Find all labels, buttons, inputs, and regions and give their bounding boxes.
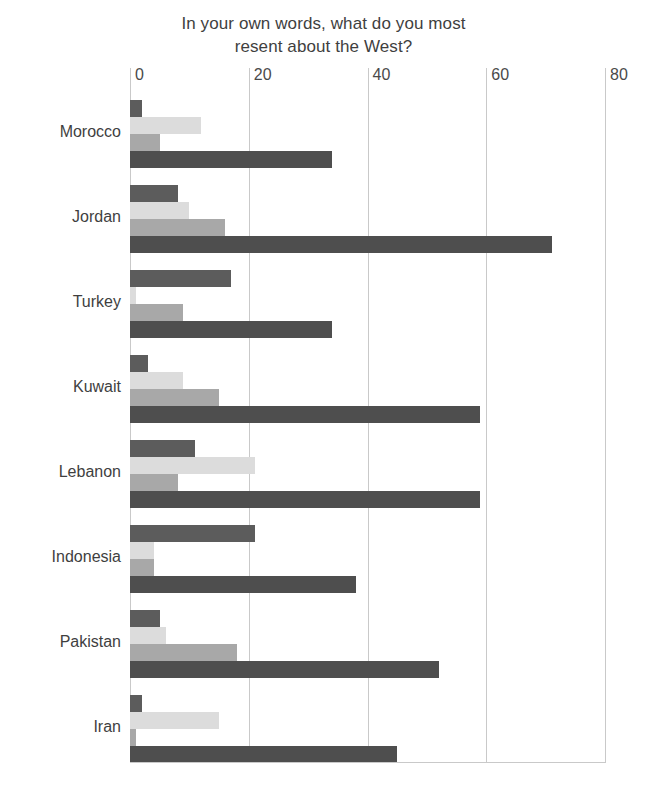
bar — [130, 287, 136, 304]
bar-group: Morocco — [130, 100, 605, 168]
bar-group: Lebanon — [130, 440, 605, 508]
bar-group: Pakistan — [130, 610, 605, 678]
category-label-jordan: Jordan — [72, 208, 121, 226]
bar — [130, 100, 142, 117]
bar — [130, 474, 178, 491]
chart-title-line-1: In your own words, what do you most — [0, 12, 647, 35]
bar — [130, 729, 136, 746]
bar — [130, 610, 160, 627]
bar — [130, 236, 552, 253]
bar — [130, 491, 480, 508]
x-tick-label-60: 60 — [486, 66, 509, 84]
category-label-iran: Iran — [93, 718, 121, 736]
x-tick-label-0: 0 — [130, 66, 144, 84]
bar-group: Jordan — [130, 185, 605, 253]
bar — [130, 134, 160, 151]
bar — [130, 219, 225, 236]
bar — [130, 406, 480, 423]
bar — [130, 202, 189, 219]
category-label-kuwait: Kuwait — [73, 378, 121, 396]
x-tick-label-40: 40 — [368, 66, 391, 84]
bar — [130, 661, 439, 678]
bar — [130, 525, 255, 542]
bar-group: Kuwait — [130, 355, 605, 423]
bar — [130, 151, 332, 168]
chart-title: In your own words, what do you most rese… — [0, 12, 647, 58]
bar-group: Turkey — [130, 270, 605, 338]
bar-group: Indonesia — [130, 525, 605, 593]
bar — [130, 559, 154, 576]
bar — [130, 576, 356, 593]
bar-group: Iran — [130, 695, 605, 763]
bar — [130, 117, 201, 134]
category-label-turkey: Turkey — [73, 293, 121, 311]
bar — [130, 389, 219, 406]
category-label-morocco: Morocco — [60, 123, 121, 141]
category-label-lebanon: Lebanon — [59, 463, 121, 481]
bar — [130, 270, 231, 287]
bar — [130, 644, 237, 661]
x-tick-label-80: 80 — [605, 66, 628, 84]
bar — [130, 695, 142, 712]
bar — [130, 440, 195, 457]
bar — [130, 457, 255, 474]
bar — [130, 712, 219, 729]
bar — [130, 372, 183, 389]
bar — [130, 321, 332, 338]
bar — [130, 542, 154, 559]
plot-area: 020406080MoroccoJordanTurkeyKuwaitLebano… — [130, 94, 605, 762]
bar — [130, 746, 397, 763]
chart-root: In your own words, what do you most rese… — [0, 0, 647, 806]
bar — [130, 304, 183, 321]
category-label-pakistan: Pakistan — [60, 633, 121, 651]
category-label-indonesia: Indonesia — [52, 548, 121, 566]
x-axis-baseline — [130, 762, 606, 763]
gridline-80 — [605, 68, 606, 762]
bar — [130, 355, 148, 372]
x-tick-label-20: 20 — [249, 66, 272, 84]
bar — [130, 185, 178, 202]
chart-title-line-2: resent about the West? — [0, 35, 647, 58]
bar — [130, 627, 166, 644]
